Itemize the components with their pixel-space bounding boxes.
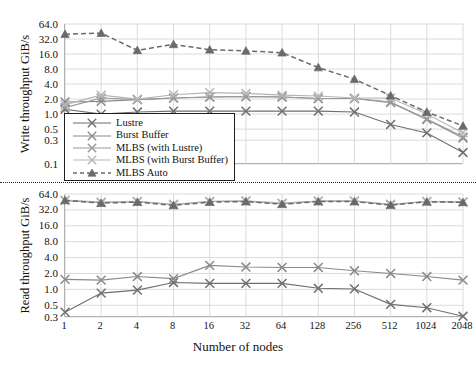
legend-item[interactable]: Lustre	[65, 117, 234, 129]
y-tick-label: 32.0	[39, 34, 58, 45]
x-axis-tick-labels: 124816326412825651210242048	[64, 321, 462, 335]
read-chart-plot-area	[64, 194, 462, 317]
x-tick-label: 256	[346, 321, 362, 332]
x-tick-label: 1024	[415, 321, 436, 332]
y-tick-label: 0.5	[44, 300, 58, 311]
legend-item-label: MLBS Auto	[116, 168, 168, 179]
chart-separator-line	[0, 182, 476, 183]
series-line	[65, 33, 463, 126]
x-tick-label: 512	[382, 321, 398, 332]
series-line	[65, 283, 463, 317]
legend-item-label: MLBS (with Burst Buffer)	[116, 155, 228, 166]
x-marker-icon	[71, 117, 113, 129]
series-marker	[459, 122, 467, 130]
y-tick-label: 0.5	[44, 124, 58, 135]
y-tick-label: 4.0	[44, 252, 58, 263]
y-tick-label: 16.0	[39, 49, 58, 60]
x-tick-label: 2	[98, 321, 103, 332]
y-tick-label: 64.0	[39, 189, 58, 200]
x-tick-label: 32	[240, 321, 251, 332]
y-tick-label: 2.0	[44, 94, 58, 105]
x-tick-label: 8	[170, 321, 175, 332]
legend-item[interactable]: MLBS Auto	[65, 167, 234, 179]
x-axis-title: Number of nodes	[0, 339, 476, 355]
legend-item[interactable]: MLBS (with Lustre)	[65, 142, 234, 154]
x-marker-icon	[71, 130, 113, 142]
y-tick-label: 0.3	[44, 135, 58, 146]
y-tick-label: 32.0	[39, 204, 58, 215]
y-tick-label: 1.0	[44, 284, 58, 295]
y-tick-label: 0.3	[44, 312, 58, 323]
x-marker-icon	[71, 142, 113, 154]
y-tick-label: 16.0	[39, 220, 58, 231]
y-tick-label: 0.1	[44, 159, 58, 170]
x-tick-label: 16	[203, 321, 214, 332]
series-line	[65, 265, 463, 280]
legend-item-label: Lustre	[116, 118, 143, 129]
x-tick-label: 2048	[452, 321, 473, 332]
series-marker	[133, 46, 141, 54]
y-tick-label: 4.0	[44, 79, 58, 90]
x-marker-icon	[71, 154, 113, 166]
read-chart-y-axis-title: Read throughput GiB/s	[18, 194, 33, 317]
read-chart-series-svg	[65, 194, 463, 317]
y-tick-label: 8.0	[44, 64, 58, 75]
y-tick-label: 1.0	[44, 109, 58, 120]
legend-item-label: Burst Buffer	[116, 130, 169, 141]
y-tick-label: 8.0	[44, 236, 58, 247]
write-chart-y-axis-title: Write throughput GiB/s	[18, 24, 33, 164]
y-tick-label: 64.0	[39, 19, 58, 30]
figure-root: Write throughput GiB/s 64.032.016.08.04.…	[0, 0, 476, 367]
series-marker	[169, 40, 177, 48]
chart-legend: LustreBurst BufferMLBS (with Lustre)MLBS…	[64, 113, 235, 181]
x-tick-label: 1	[61, 321, 66, 332]
read-throughput-chart: Read throughput GiB/s 64.032.016.08.04.0…	[0, 184, 476, 367]
x-tick-label: 128	[309, 321, 325, 332]
x-tick-label: 4	[134, 321, 139, 332]
y-tick-label: 2.0	[44, 268, 58, 279]
legend-item-label: MLBS (with Lustre)	[116, 143, 202, 154]
x-tick-label: 64	[276, 321, 287, 332]
legend-item[interactable]: MLBS (with Burst Buffer)	[65, 154, 234, 166]
triangle-marker-icon	[71, 167, 113, 179]
legend-item[interactable]: Burst Buffer	[65, 129, 234, 141]
